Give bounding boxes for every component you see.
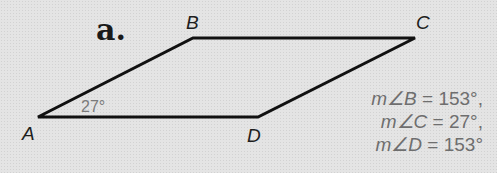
measure-b: m∠B = 153°, (371, 87, 483, 110)
vertex-label-d: D (247, 125, 261, 147)
vertex-label-b: B (186, 12, 199, 34)
measure-d: m∠D = 153° (371, 133, 483, 156)
vertex-label-c: C (416, 12, 430, 34)
angle-measures: m∠B = 153°, m∠C = 27°, m∠D = 153° (371, 87, 483, 156)
angle-a-label: 27° (81, 98, 105, 116)
vertex-label-a: A (22, 123, 35, 145)
measure-c: m∠C = 27°, (371, 110, 483, 133)
part-label: a. (96, 12, 126, 47)
